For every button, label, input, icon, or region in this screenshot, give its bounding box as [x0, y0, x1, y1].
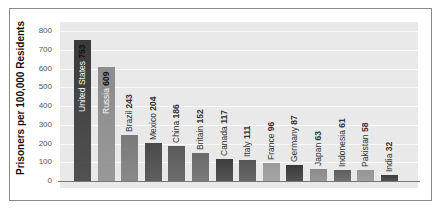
bar-italy	[239, 160, 256, 181]
bar-canada	[216, 159, 233, 181]
y-axis-label: Prisoners per 100,000 Residents	[15, 21, 26, 175]
bar-label: India 32	[384, 142, 394, 172]
bar-mexico	[145, 143, 162, 181]
y-tick-label: 0	[22, 177, 52, 185]
bar-indonesia	[334, 170, 351, 181]
gridline	[60, 50, 418, 51]
bar-label: Brazil 243	[124, 95, 134, 133]
bar-label: France 96	[266, 122, 276, 160]
bar-britain	[192, 153, 209, 182]
bar-label: United States 753	[77, 44, 87, 112]
y-tick-label: 700	[22, 46, 52, 54]
bar-label: Indonesia 61	[337, 118, 347, 167]
y-tick-label: 300	[22, 121, 52, 129]
bar-label: Canada 117	[219, 110, 229, 156]
bar-label: China 186	[171, 104, 181, 143]
y-tick-label: 400	[22, 102, 52, 110]
bar-label: Italy 111	[242, 126, 252, 157]
bar-label: Germany 87	[289, 115, 299, 162]
bar-label: Japan 63	[313, 131, 323, 166]
bar-france	[263, 163, 280, 181]
bar-label: Mexico 204	[148, 96, 158, 139]
bar-china	[168, 146, 185, 181]
gridline	[60, 31, 418, 32]
bar-label: Pakistan 58	[360, 123, 370, 167]
y-tick-label: 600	[22, 65, 52, 73]
y-tick-label: 200	[22, 140, 52, 148]
bar-label: Russia 609	[101, 71, 111, 114]
bar-germany	[286, 165, 303, 181]
x-axis-baseline	[58, 181, 420, 182]
y-tick-label: 800	[22, 27, 52, 35]
bar-pakistan	[357, 170, 374, 181]
bar-brazil	[121, 135, 138, 181]
bar-label: Britain 152	[195, 109, 205, 150]
y-tick-label: 100	[22, 158, 52, 166]
bar-japan	[310, 169, 327, 181]
y-tick-label: 500	[22, 83, 52, 91]
